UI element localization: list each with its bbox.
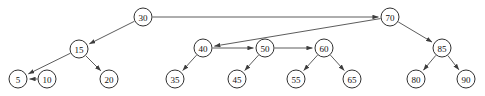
tree-node-circle[interactable] <box>343 70 361 88</box>
tree-node-circle[interactable] <box>9 70 27 88</box>
tree-edge <box>448 56 459 70</box>
tree-edge <box>423 55 435 70</box>
tree-node-circle[interactable] <box>100 70 118 88</box>
tree-node[interactable]: 70 <box>381 8 399 26</box>
tree-node[interactable]: 5 <box>9 70 27 88</box>
tree-edge <box>245 55 259 70</box>
tree-node-circle[interactable] <box>287 70 305 88</box>
tree-node[interactable]: 40 <box>194 39 212 57</box>
tree-node[interactable]: 45 <box>228 70 246 88</box>
tree-node-circle[interactable] <box>457 70 475 88</box>
tree-node[interactable]: 15 <box>70 40 88 58</box>
tree-edge <box>89 21 134 44</box>
tree-node-circle[interactable] <box>256 39 274 57</box>
tree-edge <box>86 56 101 71</box>
tree-node[interactable]: 65 <box>343 70 361 88</box>
tree-node[interactable]: 60 <box>315 39 333 57</box>
tree-node-circle[interactable] <box>381 8 399 26</box>
tree-node-circle[interactable] <box>315 39 333 57</box>
tree-node-circle[interactable] <box>70 40 88 58</box>
tree-node[interactable]: 50 <box>256 39 274 57</box>
binary-search-tree-diagram: 3070154050608551020354555658090 <box>0 0 485 96</box>
tree-node-circle[interactable] <box>228 70 246 88</box>
tree-edge <box>214 19 380 47</box>
tree-node[interactable]: 55 <box>287 70 305 88</box>
tree-node[interactable]: 85 <box>433 39 451 57</box>
tree-node-circle[interactable] <box>407 70 425 88</box>
tree-node[interactable]: 30 <box>134 8 152 26</box>
tree-edge <box>330 55 344 70</box>
tree-node[interactable]: 35 <box>166 70 184 88</box>
tree-node-circle[interactable] <box>38 70 56 88</box>
tree-node-circle[interactable] <box>166 70 184 88</box>
tree-edge <box>398 22 432 42</box>
tree-node-circle[interactable] <box>134 8 152 26</box>
tree-node[interactable]: 20 <box>100 70 118 88</box>
tree-edge <box>304 55 318 70</box>
tree-node[interactable]: 80 <box>407 70 425 88</box>
tree-node-circle[interactable] <box>433 39 451 57</box>
tree-node[interactable]: 10 <box>38 70 56 88</box>
tree-node[interactable]: 90 <box>457 70 475 88</box>
tree-node-circle[interactable] <box>194 39 212 57</box>
edges-layer <box>28 17 458 79</box>
tree-edge <box>183 55 197 70</box>
